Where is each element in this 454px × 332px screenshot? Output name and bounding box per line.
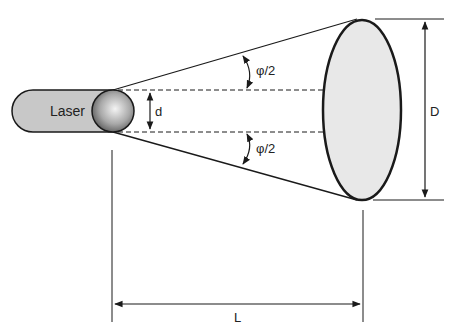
beam-spot-ellipse [323,20,401,200]
half-angle-arc-bottom [243,134,250,164]
aperture-label: d [155,104,162,119]
beam-edge-bottom [113,132,357,200]
half-angle-arc-top [243,56,250,88]
beam-edge-top [113,19,357,90]
half-angle-bottom-label: φ/2 [256,141,275,156]
laser-aperture-lens [92,90,134,132]
laser-label: Laser [50,103,85,119]
laser-divergence-diagram: Laser d φ/2 φ/2 D L [0,0,454,332]
half-angle-top-label: φ/2 [256,63,275,78]
spot-diameter-label: D [430,104,439,119]
distance-label: L [234,310,241,325]
